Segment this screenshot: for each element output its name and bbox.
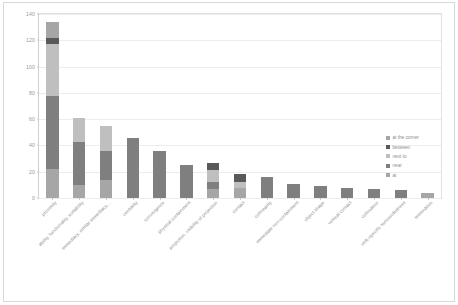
bar-column [234,14,246,198]
legend-swatch-icon [386,145,390,149]
bar-segment [207,163,219,171]
x-axis-tick-label: proximity [41,200,58,217]
bar-segment [46,44,58,95]
bar-segment [100,126,112,151]
bar-column [100,14,112,198]
bar-segment [261,177,273,198]
bar-segment [153,151,165,198]
bar-segment [73,142,85,185]
plot-area: 020406080100120140 [38,13,442,199]
bar-segment [395,190,407,198]
bar-segment [73,185,85,198]
bar-segment [207,170,219,182]
x-axis-tick-label: convergence [143,200,166,223]
y-axis-tick-label: 60 [29,116,35,122]
y-axis-tick-label: 140 [26,11,35,17]
legend-item-label: near [393,163,402,168]
legend-item: between [386,142,448,151]
bar-column [261,14,273,198]
bar-segment [127,138,139,198]
bar-column [73,14,85,198]
bar-segment [207,189,219,198]
bar-column [341,14,353,198]
y-axis-tick-label: 0 [32,195,35,201]
bar-segment [100,180,112,198]
bar-segment [207,182,219,189]
bars-layer [39,14,441,198]
bar-column [314,14,326,198]
legend-swatch-icon [386,154,390,158]
bar-segment [100,151,112,180]
bar-column [287,14,299,198]
x-axis-tick-label: centrality [121,200,138,217]
legend-item-label: at the corner [393,135,419,140]
y-axis-tick-label: 80 [29,90,35,96]
x-axis-labels: proximityability, functionality, sortabi… [38,200,442,300]
bar-segment [180,165,192,198]
bar-segment [341,188,353,199]
legend-swatch-icon [386,173,390,177]
bar-segment [234,182,246,187]
y-axis-tick-label: 20 [29,169,35,175]
bar-segment [287,184,299,198]
x-axis-tick-label: object shape [304,200,326,222]
legend-item: next to [386,152,448,161]
x-axis-tick-label: projection, visibility of projection [168,200,218,250]
bar-segment [234,174,246,182]
legend-item: near [386,161,448,170]
x-axis-tick-label: ability, functionality, sortability [38,200,85,247]
bar-segment [46,169,58,198]
x-axis-tick-label: verb-specific surroundedness [359,200,406,247]
bar-segment [46,22,58,38]
x-axis-tick-label: collinearity [253,200,272,219]
chart-figure: 020406080100120140 proximityability, fun… [0,0,458,305]
y-axis-tick-label: 100 [26,64,35,70]
bar-segment [46,96,58,170]
x-axis-tick-label: collocation [360,200,379,219]
bar-segment [46,38,58,45]
bar-column [180,14,192,198]
x-axis-tick-label: vertical contact [327,200,353,226]
bar-column [127,14,139,198]
x-axis-tick-label: immediacy, similar immediacy,... [61,200,112,251]
bar-segment [368,189,380,198]
legend-swatch-icon [386,136,390,140]
legend-item-label: between [393,145,411,150]
chart-legend: at the cornerbetweennext tonearat [386,133,448,180]
legend-item: at the corner [386,133,448,142]
x-axis-tick-label: contact [231,200,245,214]
legend-swatch-icon [386,164,390,168]
x-axis-tick-label: termination [413,200,433,220]
bar-column [368,14,380,198]
bar-segment [73,118,85,142]
legend-item-label: next to [393,154,407,159]
bar-column [207,14,219,198]
bar-segment [234,188,246,199]
legend-item: at [386,171,448,180]
bar-column [153,14,165,198]
bar-segment [314,186,326,198]
y-axis-tick-label: 40 [29,142,35,148]
bar-column [46,14,58,198]
legend-item-label: at [393,173,397,178]
y-axis-tick-label: 120 [26,37,35,43]
